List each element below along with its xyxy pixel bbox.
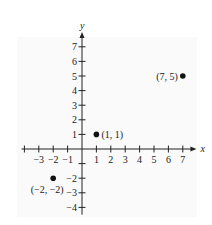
y-axis-arrow-icon [80,32,85,38]
coordinate-plane: xy −3−2−11234567−4−3−21234567 (1, 1)(−2,… [0,0,212,225]
x-tick-label: −2 [48,154,59,165]
x-tick-label: 4 [137,154,142,165]
x-tick-label: 5 [152,154,157,165]
y-tick-label: 6 [72,56,77,67]
y-tick-label: 3 [72,100,77,111]
point-label: (7, 5) [156,71,178,83]
point-label: (1, 1) [101,129,123,141]
x-tick-label: 1 [94,154,99,165]
y-tick-label: −3 [66,187,77,198]
x-axis-label: x [199,143,205,154]
y-axis-label: y [79,20,85,31]
point-label: (−2, −2) [31,184,64,196]
data-point [50,175,56,181]
data-point [180,73,186,79]
x-tick-label: 2 [108,154,113,165]
x-tick-label: −1 [62,154,73,165]
y-tick-label: 7 [72,41,77,52]
y-tick-label: −2 [66,173,77,184]
y-tick-label: 5 [72,71,77,82]
y-tick-label: 1 [72,129,77,140]
y-tick-label: −4 [66,202,77,213]
data-point [94,132,100,138]
y-tick-label: 4 [72,85,77,96]
x-tick-label: 6 [166,154,171,165]
x-tick-label: 3 [123,154,128,165]
y-tick-label: 2 [72,114,77,125]
x-tick-label: 7 [180,154,185,165]
x-tick-label: −3 [33,154,44,165]
